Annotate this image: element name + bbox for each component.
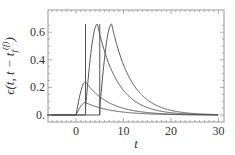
x-tick-label: 20 [165,124,177,138]
data-curves [48,24,219,115]
x-tick-labels: 0102030 [73,124,225,138]
series-line [48,24,219,115]
chart: 0.0.20.40.6 0102030 t ϵ(t, t − tf(f)) [0,0,235,155]
y-tick-label: 0. [36,108,45,122]
series-line [48,82,219,115]
x-tick-label: 10 [118,124,130,138]
y-tick-labels: 0.0.20.40.6 [30,25,45,122]
x-tick-label: 30 [213,124,225,138]
y-tick-label: 0.6 [30,25,45,39]
y-tick-label: 0.4 [30,53,45,67]
x-tick-label: 0 [73,124,79,138]
y-axis-label: ϵ(t, t − tf(f)) [0,37,19,95]
y-tick-label: 0.2 [30,80,45,94]
series-line [48,24,219,115]
x-axis-label: t [134,136,138,151]
plot-frame [48,10,224,122]
axis-ticks [48,10,224,122]
